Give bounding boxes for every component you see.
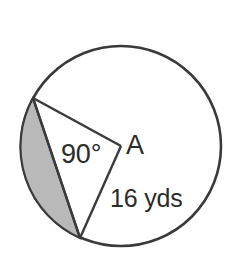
angle-measure-label: 90° <box>61 141 101 168</box>
radius-measure-label: 16 yds <box>110 186 182 211</box>
geometry-figure: 90° A 16 yds <box>0 0 241 269</box>
vertex-label-a: A <box>126 132 144 159</box>
circle-diagram-svg <box>0 0 241 269</box>
